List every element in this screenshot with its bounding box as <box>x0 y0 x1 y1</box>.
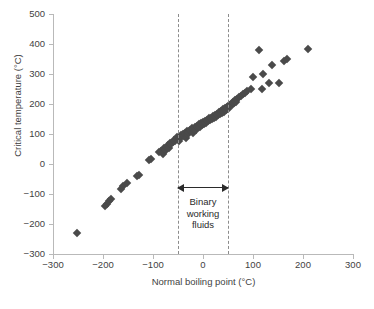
data-point <box>275 79 283 87</box>
y-tick-label: −300 <box>5 249 45 259</box>
data-point <box>265 79 273 87</box>
region-annotation-label: Binaryworkingfluids <box>168 196 238 231</box>
y-tick-label: −200 <box>5 219 45 229</box>
scatter-chart: −300−200−1000100200300400500 −300−200−10… <box>0 0 374 309</box>
y-tick-mark <box>49 44 54 45</box>
x-tick-label: 0 <box>180 259 226 270</box>
region-span-arrow <box>178 187 228 188</box>
y-tick-mark <box>49 14 54 15</box>
y-tick-mark <box>49 74 54 75</box>
y-tick-label: −100 <box>5 189 45 199</box>
arrow-head-right-icon <box>222 184 229 192</box>
data-point <box>259 70 267 78</box>
x-tick-label: 300 <box>330 259 374 270</box>
region-annotation-line: Binary <box>168 196 238 208</box>
x-tick-label: −100 <box>130 259 176 270</box>
y-tick-mark <box>49 164 54 165</box>
y-tick-mark <box>49 194 54 195</box>
x-tick-label: 200 <box>280 259 326 270</box>
data-point <box>304 44 312 52</box>
x-tick-label: −200 <box>80 259 126 270</box>
data-point <box>268 61 276 69</box>
data-point <box>258 85 266 93</box>
y-tick-mark <box>49 224 54 225</box>
y-tick-mark <box>49 104 54 105</box>
y-tick-mark <box>49 134 54 135</box>
data-point <box>249 73 257 81</box>
data-point <box>255 46 263 54</box>
x-axis-title: Normal boiling point (°C) <box>53 276 354 287</box>
data-point <box>72 229 80 237</box>
x-tick-label: −300 <box>30 259 76 270</box>
arrow-head-left-icon <box>177 184 184 192</box>
x-tick-label: 100 <box>230 259 276 270</box>
region-annotation-line: fluids <box>168 219 238 231</box>
y-tick-label: 500 <box>5 9 45 19</box>
y-axis-title: Critical temperature (°C) <box>12 26 23 186</box>
region-annotation-line: working <box>168 208 238 220</box>
